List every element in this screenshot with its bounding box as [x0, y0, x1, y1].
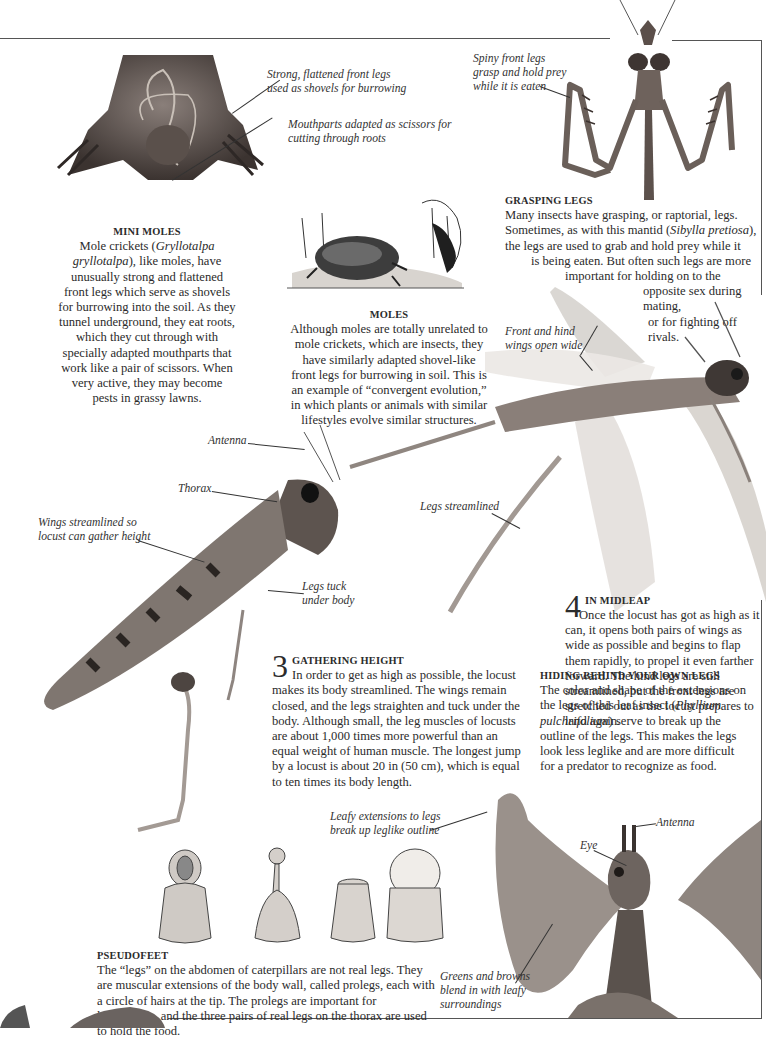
grasping-line-4: is being eaten. But often such legs are …: [505, 254, 763, 269]
mini-moles-body-post: ), like moles, have unusually strong and…: [58, 254, 235, 405]
heading-in-midleap: IN MIDLEAP: [565, 593, 763, 608]
proleg-2: [255, 848, 300, 942]
heading-pseudofeet: PSEUDOFEET: [97, 948, 437, 963]
grasping-line-2-post: ),: [749, 223, 756, 237]
heading-gathering-height: GATHERING HEIGHT: [272, 653, 522, 668]
grasping-line-2: Sometimes, as with this mantid (Sibylla …: [505, 223, 763, 238]
step-number-3: 3: [272, 653, 288, 679]
section-hiding-behind-legs: HIDING BEHIND YOUR OWN LEGS The color an…: [540, 668, 748, 774]
grasping-species: Sibylla pretiosa: [670, 223, 749, 237]
caption-leaf-antenna: Antenna: [656, 816, 695, 830]
caption-front-hind-wings: Front and hind wings open wide: [505, 325, 582, 353]
heading-mini-moles: MINI MOLES: [58, 224, 236, 239]
leaf-fragment-illustration: [0, 1005, 170, 1028]
caption-mole-legs: Strong, flattened front legs used as sho…: [267, 68, 406, 96]
heading-grasping-legs: GRASPING LEGS: [505, 193, 763, 208]
proleg-4: [387, 849, 443, 942]
page-frame-top-rule: [0, 38, 610, 39]
grasping-line-3: the legs are used to grab and hold prey …: [505, 239, 763, 254]
caption-thorax: Thorax: [178, 482, 212, 496]
section-mini-moles: MINI MOLES Mole crickets (Gryllotalpa gr…: [58, 224, 236, 406]
caption-antenna-locust: Antenna: [208, 434, 247, 448]
caption-mantid-legs: Spiny front legs grasp and hold prey whi…: [473, 52, 566, 94]
grasping-line-1: Many insects have grasping, or raptorial…: [505, 208, 763, 223]
caption-legs-streamlined: Legs streamlined: [420, 500, 499, 514]
caption-wings-streamlined: Wings streamlined so locust can gather h…: [38, 516, 150, 544]
proleg-1: [159, 850, 211, 943]
mantid-illustration: [560, 0, 735, 200]
mini-moles-body-pre: Mole crickets (: [79, 239, 155, 253]
caption-leafy-extensions: Leafy extensions to legs break up leglik…: [330, 810, 440, 838]
caption-legs-tuck: Legs tuck under body: [302, 580, 354, 608]
mole-cricket-illustration: [28, 50, 278, 180]
section-gathering-height: 3 GATHERING HEIGHT In order to get as hi…: [272, 653, 522, 790]
grasping-line-2-pre: Sometimes, as with this mantid (: [505, 223, 670, 237]
gathering-height-body: In order to get as high as possible, the…: [272, 668, 521, 788]
proleg-3: [331, 879, 375, 942]
caption-greens-browns: Greens and browns blend in with leafy su…: [440, 970, 530, 1012]
heading-hiding-behind-legs: HIDING BEHIND YOUR OWN LEGS: [540, 668, 748, 683]
caption-mole-mouthparts: Mouthparts adapted as scissors for cutti…: [288, 118, 452, 146]
prolegs-illustration: [155, 848, 445, 948]
